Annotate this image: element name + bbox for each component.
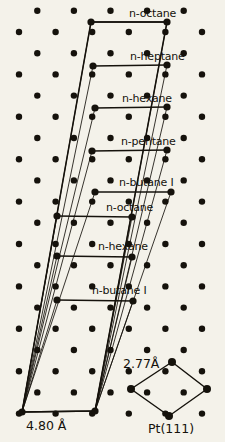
lattice-dot [181, 389, 187, 395]
lattice-dot [71, 50, 77, 56]
lattice-dot [89, 368, 95, 374]
molecule-axis-segment [57, 256, 132, 257]
molecule-endpoint-dot [53, 252, 60, 259]
lattice-dot [52, 368, 58, 374]
molecule-endpoint-dot [53, 212, 60, 219]
lattice-dot [52, 114, 58, 120]
lattice-dot [16, 156, 22, 162]
dimension-bar [22, 411, 95, 412]
molecule-axis-segment [93, 65, 167, 66]
molecule-endpoint-dot [88, 147, 95, 154]
lattice-dot [181, 347, 187, 353]
lattice-dot [181, 8, 187, 14]
lattice-dot [52, 71, 58, 77]
lattice-dot [181, 304, 187, 310]
lattice-dot [162, 283, 168, 289]
lattice-dot [71, 8, 77, 14]
pt-corner-dot [165, 412, 173, 420]
molecule-axis-segment [57, 216, 132, 217]
molecule-label: n-heptane [130, 50, 185, 63]
lattice-dot [199, 29, 205, 35]
lattice-dot [126, 326, 132, 332]
lattice-dot [107, 8, 113, 14]
lattice-dot [89, 241, 95, 247]
lattice-dot [89, 71, 95, 77]
lattice-dot [71, 220, 77, 226]
lattice-dot [16, 326, 22, 332]
lattice-dot [16, 241, 22, 247]
molecule-label: n-hexane [98, 240, 148, 253]
pt-corner-dot [168, 358, 176, 366]
lattice-dot [126, 156, 132, 162]
lattice-dot [199, 410, 205, 416]
lattice-dot [199, 368, 205, 374]
molecule-endpoint-dot [128, 253, 135, 260]
lattice-dot [181, 92, 187, 98]
pt111-label: Pt(111) [148, 421, 194, 436]
molecule-endpoint-dot [53, 296, 60, 303]
molecule-endpoint-dot [128, 213, 135, 220]
lattice-dot [144, 389, 150, 395]
lattice-dot [162, 326, 168, 332]
lattice-dot [71, 304, 77, 310]
lattice-dot [16, 71, 22, 77]
lattice-dot [107, 135, 113, 141]
lattice-dot [71, 92, 77, 98]
lattice-dot [52, 198, 58, 204]
lattice-dot [199, 156, 205, 162]
molecule-label: n-hexane [122, 92, 172, 105]
lattice-dot [199, 283, 205, 289]
lattice-dot [199, 326, 205, 332]
lattice-dot [34, 389, 40, 395]
lattice-dot [71, 135, 77, 141]
lattice-dot [126, 114, 132, 120]
lattice-dot [71, 177, 77, 183]
lattice-dot [181, 135, 187, 141]
molecule-axis-segment [95, 107, 167, 108]
molecule-label: n-octane [106, 201, 154, 214]
lattice-dot [107, 304, 113, 310]
molecule-endpoint-dot [91, 188, 98, 195]
lattice-dot [71, 389, 77, 395]
molecule-label: n-pentane [121, 135, 176, 148]
pt-corner-dot [127, 385, 135, 393]
lattice-dot [34, 262, 40, 268]
lattice-dot [107, 177, 113, 183]
molecule-endpoint-dot [129, 297, 136, 304]
lattice-dot [34, 92, 40, 98]
lattice-dot [162, 241, 168, 247]
molecule-endpoint-dot [87, 18, 94, 25]
lattice-dot [181, 262, 187, 268]
lattice-dot [199, 198, 205, 204]
molecule-endpoint-dot [91, 104, 98, 111]
lattice-dot [107, 262, 113, 268]
pt-nn-distance-label: 2.77Å [123, 356, 160, 371]
lattice-dot [52, 29, 58, 35]
lattice-dot [34, 50, 40, 56]
lattice-dot [16, 198, 22, 204]
lattice-dot [162, 368, 168, 374]
lattice-dot [89, 326, 95, 332]
lattice-dot [52, 156, 58, 162]
lattice-dot [52, 326, 58, 332]
molecule-label: n-butane I [119, 176, 173, 189]
molecule-endpoint-dot [167, 188, 174, 195]
lattice-dot [144, 347, 150, 353]
lattice-dot [107, 389, 113, 395]
lattice-dot [16, 29, 22, 35]
lattice-dot [16, 114, 22, 120]
lattice-dot [16, 368, 22, 374]
lattice-dot [199, 71, 205, 77]
lattice-dot [34, 135, 40, 141]
lattice-dot [107, 92, 113, 98]
lattice-dot [34, 8, 40, 14]
lattice-dot [126, 71, 132, 77]
dimension-label-480: 4.80 Å [26, 418, 67, 433]
lattice-dot [199, 241, 205, 247]
surface-structure-diagram: n-octanen-heptanen-hexanen-pentanen-buta… [0, 0, 225, 442]
molecule-label: n-butane I [92, 284, 146, 297]
molecule-axis-segment [57, 300, 133, 301]
lattice-dot [16, 283, 22, 289]
lattice-dot [71, 347, 77, 353]
lattice-dot [181, 177, 187, 183]
